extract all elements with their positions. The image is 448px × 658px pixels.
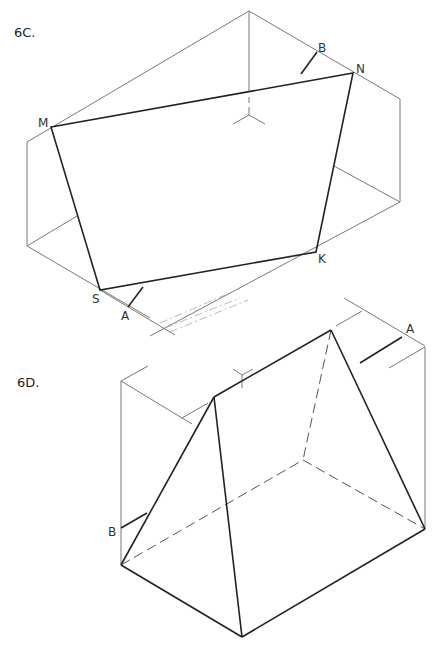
marker-a-tick (360, 337, 402, 363)
point-k-label: K (318, 252, 327, 266)
figure-6d: 6D. (17, 298, 425, 637)
marker-a-label: A (406, 322, 415, 336)
marker-b-label: B (318, 41, 326, 55)
section-polygon-mnks (51, 73, 353, 290)
figure-6d-hidden-edges (121, 330, 425, 565)
point-m-label: M (38, 116, 48, 130)
figure-6c-box (27, 11, 400, 336)
drawing-canvas: 6C. M N (0, 0, 448, 658)
figure-6d-solid (121, 330, 425, 637)
figure-6c-label: 6C. (14, 25, 35, 40)
marker-b-label: B (108, 525, 116, 539)
marker-a-label: A (121, 309, 130, 323)
point-s-label: S (92, 292, 100, 306)
figure-6d-label: 6D. (17, 375, 39, 390)
point-n-label: N (356, 62, 365, 76)
marker-b-tick (301, 52, 317, 74)
figure-6c: 6C. M N (14, 11, 400, 336)
marker-a-tick (128, 287, 143, 307)
